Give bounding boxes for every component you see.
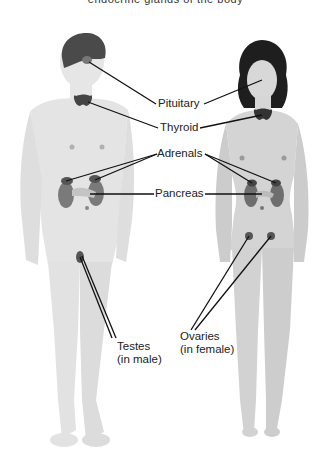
endocrine-diagram [0,0,331,463]
female-left-kidney [244,183,258,207]
female-thyroid [254,109,272,121]
male-left-kidney [58,182,74,208]
label-pancreas: Pancreas [155,187,204,200]
label-ovaries-line1: Ovaries [180,330,234,343]
male-figure [20,33,134,447]
label-testes-line2: (in male) [117,353,162,366]
label-ovaries: Ovaries (in female) [180,330,234,356]
female-figure [215,40,308,437]
label-testes-line1: Testes [117,340,162,353]
label-thyroid: Thyroid [160,121,198,134]
label-ovaries-line2: (in female) [180,343,234,356]
label-adrenals: Adrenals [157,147,202,160]
label-pituitary: Pituitary [158,97,200,110]
label-testes: Testes (in male) [117,340,162,366]
male-thyroid [74,95,92,107]
